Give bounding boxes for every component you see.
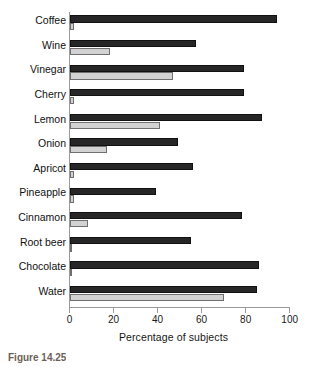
bar-dark	[70, 163, 193, 170]
bar-dark	[70, 237, 191, 244]
bar-group: Apricot	[0, 160, 313, 185]
bar-group: Coffee	[0, 12, 313, 37]
bar-dark	[70, 114, 262, 121]
bar-dark	[70, 261, 259, 268]
bar-light	[70, 122, 160, 129]
bar-group: Chocolate	[0, 258, 313, 283]
x-axis-line	[69, 307, 290, 308]
category-label: Cherry	[0, 88, 66, 100]
bar-light	[70, 171, 74, 178]
category-label: Apricot	[0, 162, 66, 174]
bar-dark	[70, 65, 244, 72]
x-tick-label: 40	[143, 314, 173, 326]
bar-group: Lemon	[0, 110, 313, 135]
x-tick-mark	[157, 308, 158, 313]
x-axis-title: Percentage of subjects	[0, 331, 313, 343]
bar-dark	[70, 286, 257, 293]
category-label: Root beer	[0, 236, 66, 248]
bar-light	[70, 72, 173, 79]
bar-group: Cinnamon	[0, 209, 313, 234]
bar-light	[70, 97, 74, 104]
category-label: Lemon	[0, 113, 66, 125]
x-tick-mark	[113, 308, 114, 313]
bar-light	[70, 48, 110, 55]
bar-dark	[70, 188, 156, 195]
x-tick-mark	[245, 308, 246, 313]
bar-group: Root beer	[0, 233, 313, 258]
x-tick-label: 20	[99, 314, 129, 326]
x-tick-label: 60	[187, 314, 217, 326]
bar-light	[70, 146, 107, 153]
x-tick-mark	[69, 308, 70, 313]
bar-light	[70, 220, 88, 227]
category-label: Onion	[0, 137, 66, 149]
bar-group: Pineapple	[0, 184, 313, 209]
bar-group: Water	[0, 282, 313, 307]
bar-group: Cherry	[0, 86, 313, 111]
bar-dark	[70, 40, 196, 47]
chart-plot-area: 020406080100 CoffeeWineVinegarCherryLemo…	[0, 0, 313, 320]
bar-dark	[70, 138, 178, 145]
bar-light	[70, 195, 74, 202]
x-tick-label: 100	[275, 314, 305, 326]
bar-light	[70, 244, 72, 251]
bar-dark	[70, 89, 244, 96]
x-tick-label: 0	[55, 314, 85, 326]
category-label: Water	[0, 285, 66, 297]
x-tick-label: 80	[231, 314, 261, 326]
bar-light	[70, 269, 72, 276]
category-label: Cinnamon	[0, 211, 66, 223]
bar-light	[70, 294, 224, 301]
figure-container: 020406080100 CoffeeWineVinegarCherryLemo…	[0, 0, 313, 368]
bar-group: Vinegar	[0, 61, 313, 86]
category-label: Pineapple	[0, 186, 66, 198]
category-label: Vinegar	[0, 63, 66, 75]
category-label: Chocolate	[0, 260, 66, 272]
bar-light	[70, 23, 74, 30]
bar-dark	[70, 212, 242, 219]
bar-group: Wine	[0, 37, 313, 62]
category-label: Wine	[0, 39, 66, 51]
figure-caption: Figure 14.25	[8, 352, 66, 368]
x-tick-mark	[289, 308, 290, 313]
category-label: Coffee	[0, 14, 66, 26]
x-tick-mark	[201, 308, 202, 313]
bar-dark	[70, 15, 277, 22]
bar-group: Onion	[0, 135, 313, 160]
